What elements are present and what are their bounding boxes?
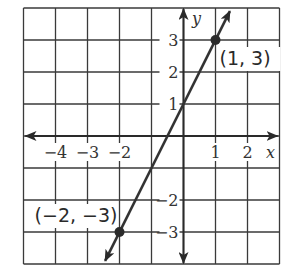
x-tick-label: 2 xyxy=(242,143,252,162)
y-tick-label: −3 xyxy=(155,223,179,242)
x-axis-label: x xyxy=(266,143,275,162)
coordinate-plane: −4−3−212321−2−3 (1, 3)(−2, −3) x y xyxy=(0,0,294,277)
y-tick-label: −2 xyxy=(155,191,179,210)
point-label: (1, 3) xyxy=(220,47,271,69)
point-label: (−2, −3) xyxy=(35,204,118,226)
y-axis-label: y xyxy=(191,9,202,28)
data-point xyxy=(211,35,221,45)
y-tick-label: 2 xyxy=(168,63,178,82)
y-tick-label: 1 xyxy=(168,95,178,114)
x-tick-label: −4 xyxy=(44,143,68,162)
data-point xyxy=(115,227,125,237)
x-tick-label: −2 xyxy=(108,143,132,162)
x-tick-label: 1 xyxy=(210,143,220,162)
y-tick-label: 3 xyxy=(168,31,178,50)
x-tick-label: −3 xyxy=(76,143,100,162)
